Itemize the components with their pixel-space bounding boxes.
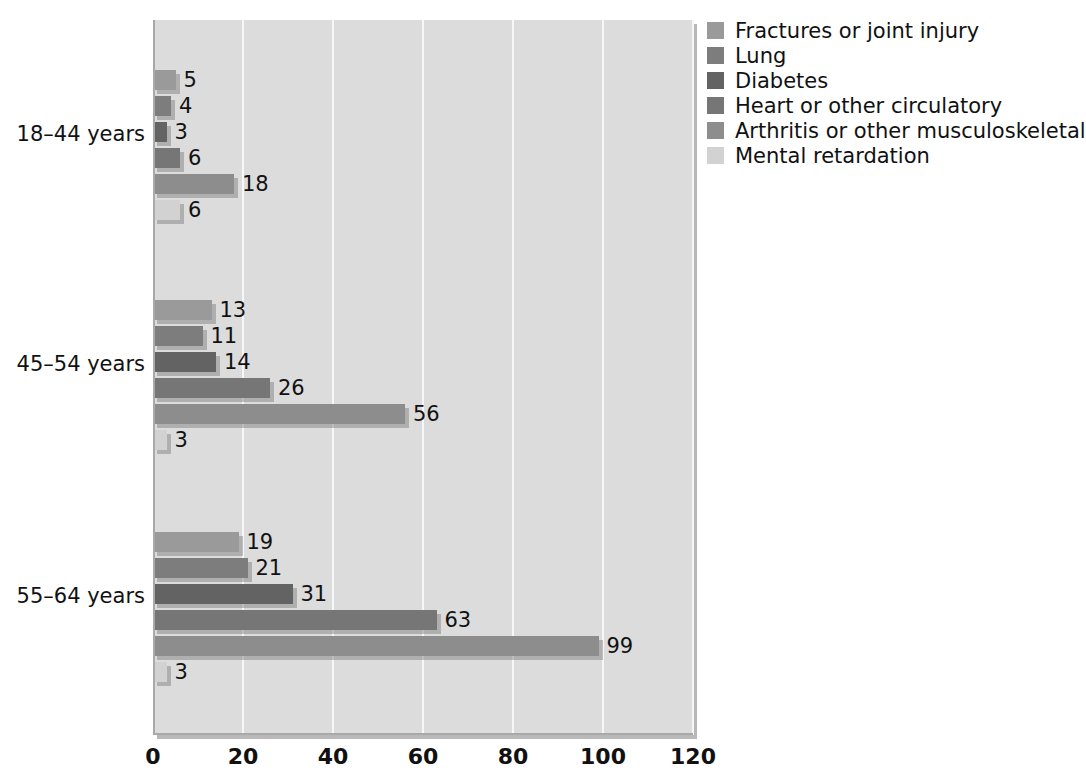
bar-value-label: 6 (188, 200, 201, 220)
bar (153, 96, 171, 116)
bar-value-label: 3 (175, 122, 188, 142)
x-axis-tick-label: 40 (318, 744, 349, 769)
legend-item: Mental retardation (707, 143, 1077, 168)
bar-value-label: 18 (242, 174, 269, 194)
x-axis-tick-label: 100 (580, 744, 626, 769)
bar-value-label: 3 (175, 662, 188, 682)
legend-item-label: Diabetes (735, 69, 828, 93)
bar-value-label: 6 (188, 148, 201, 168)
bar-value-label: 4 (179, 96, 192, 116)
bar (153, 430, 167, 450)
x-axis-tick-label: 0 (145, 744, 160, 769)
bars-layer: 54361861311142656319213163993 (153, 20, 693, 735)
plot-area: 54361861311142656319213163993 (153, 20, 693, 735)
bar (153, 200, 180, 220)
bar-value-label: 3 (175, 430, 188, 450)
bar-value-label: 26 (278, 378, 305, 398)
bar-value-label: 31 (301, 584, 328, 604)
bar-value-label: 99 (607, 636, 634, 656)
bar (153, 584, 293, 604)
chart-legend: Fractures or joint injuryLungDiabetesHea… (707, 18, 1077, 168)
legend-swatch-icon (707, 22, 724, 39)
x-axis-tick-label: 80 (498, 744, 529, 769)
bar (153, 636, 599, 656)
bar (153, 662, 167, 682)
bar-value-label: 19 (247, 532, 274, 552)
legend-swatch-icon (707, 122, 724, 139)
legend-item: Heart or other circulatory (707, 93, 1077, 118)
y-axis-category-label: 18–44 years (0, 122, 145, 146)
legend-item-label: Arthritis or other musculoskeletal (735, 119, 1086, 143)
y-axis-category-label: 55–64 years (0, 584, 145, 608)
y-axis-category-label: 45–54 years (0, 352, 145, 376)
legend-swatch-icon (707, 47, 724, 64)
legend-item: Fractures or joint injury (707, 18, 1077, 43)
legend-item: Diabetes (707, 68, 1077, 93)
bar (153, 326, 203, 346)
x-axis-tick-label: 120 (670, 744, 716, 769)
bar (153, 174, 234, 194)
bar (153, 610, 437, 630)
legend-swatch-icon (707, 72, 724, 89)
bar (153, 300, 212, 320)
legend-item: Arthritis or other musculoskeletal (707, 118, 1077, 143)
bar (153, 70, 176, 90)
x-axis-tick-labels: 020406080100120 (153, 744, 693, 778)
legend-item-label: Mental retardation (735, 144, 930, 168)
bar-value-label: 21 (256, 558, 283, 578)
bar-value-label: 11 (211, 326, 238, 346)
x-axis-tick-label: 20 (228, 744, 259, 769)
legend-swatch-icon (707, 147, 724, 164)
bar (153, 404, 405, 424)
bar-value-label: 5 (184, 70, 197, 90)
bar (153, 558, 248, 578)
y-axis-category-labels: 18–44 years45–54 years55–64 years (0, 0, 145, 782)
x-axis-line (153, 733, 693, 735)
legend-item: Lung (707, 43, 1077, 68)
y-axis-line (153, 20, 155, 735)
bar (153, 378, 270, 398)
bar-value-label: 63 (445, 610, 472, 630)
bar (153, 352, 216, 372)
bar-value-label: 14 (224, 352, 251, 372)
x-axis-tick-label: 60 (408, 744, 439, 769)
bar-value-label: 56 (413, 404, 440, 424)
legend-swatch-icon (707, 97, 724, 114)
bar (153, 148, 180, 168)
legend-item-label: Heart or other circulatory (735, 94, 1002, 118)
legend-item-label: Lung (735, 44, 786, 68)
legend-item-label: Fractures or joint injury (735, 19, 979, 43)
bar-value-label: 13 (220, 300, 247, 320)
bar (153, 122, 167, 142)
bar (153, 532, 239, 552)
